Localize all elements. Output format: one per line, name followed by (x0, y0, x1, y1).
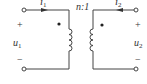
secondary-plus-sign: + (135, 19, 141, 30)
secondary-current-label: i2 (115, 0, 122, 9)
primary-bottom-terminal (22, 67, 26, 71)
primary-minus-sign: − (17, 54, 23, 65)
secondary-voltage-label: u2 (134, 37, 143, 50)
primary-top-terminal (22, 8, 26, 12)
primary-polarity-dot-icon (57, 22, 60, 25)
secondary-bottom-terminal (134, 67, 138, 71)
primary-voltage-label: u1 (13, 37, 22, 50)
primary-coil (69, 29, 72, 51)
secondary-top-terminal (134, 8, 138, 12)
secondary-coil (90, 29, 93, 51)
turns-ratio-label: n:1 (76, 1, 89, 12)
secondary-polarity-dot-icon (100, 23, 103, 26)
secondary-minus-sign: − (135, 54, 141, 65)
transformer-diagram: i1 n:1 i2 + u1 − + u2 − (0, 0, 147, 84)
primary-plus-sign: + (17, 19, 23, 30)
primary-current-label: i1 (40, 0, 47, 9)
